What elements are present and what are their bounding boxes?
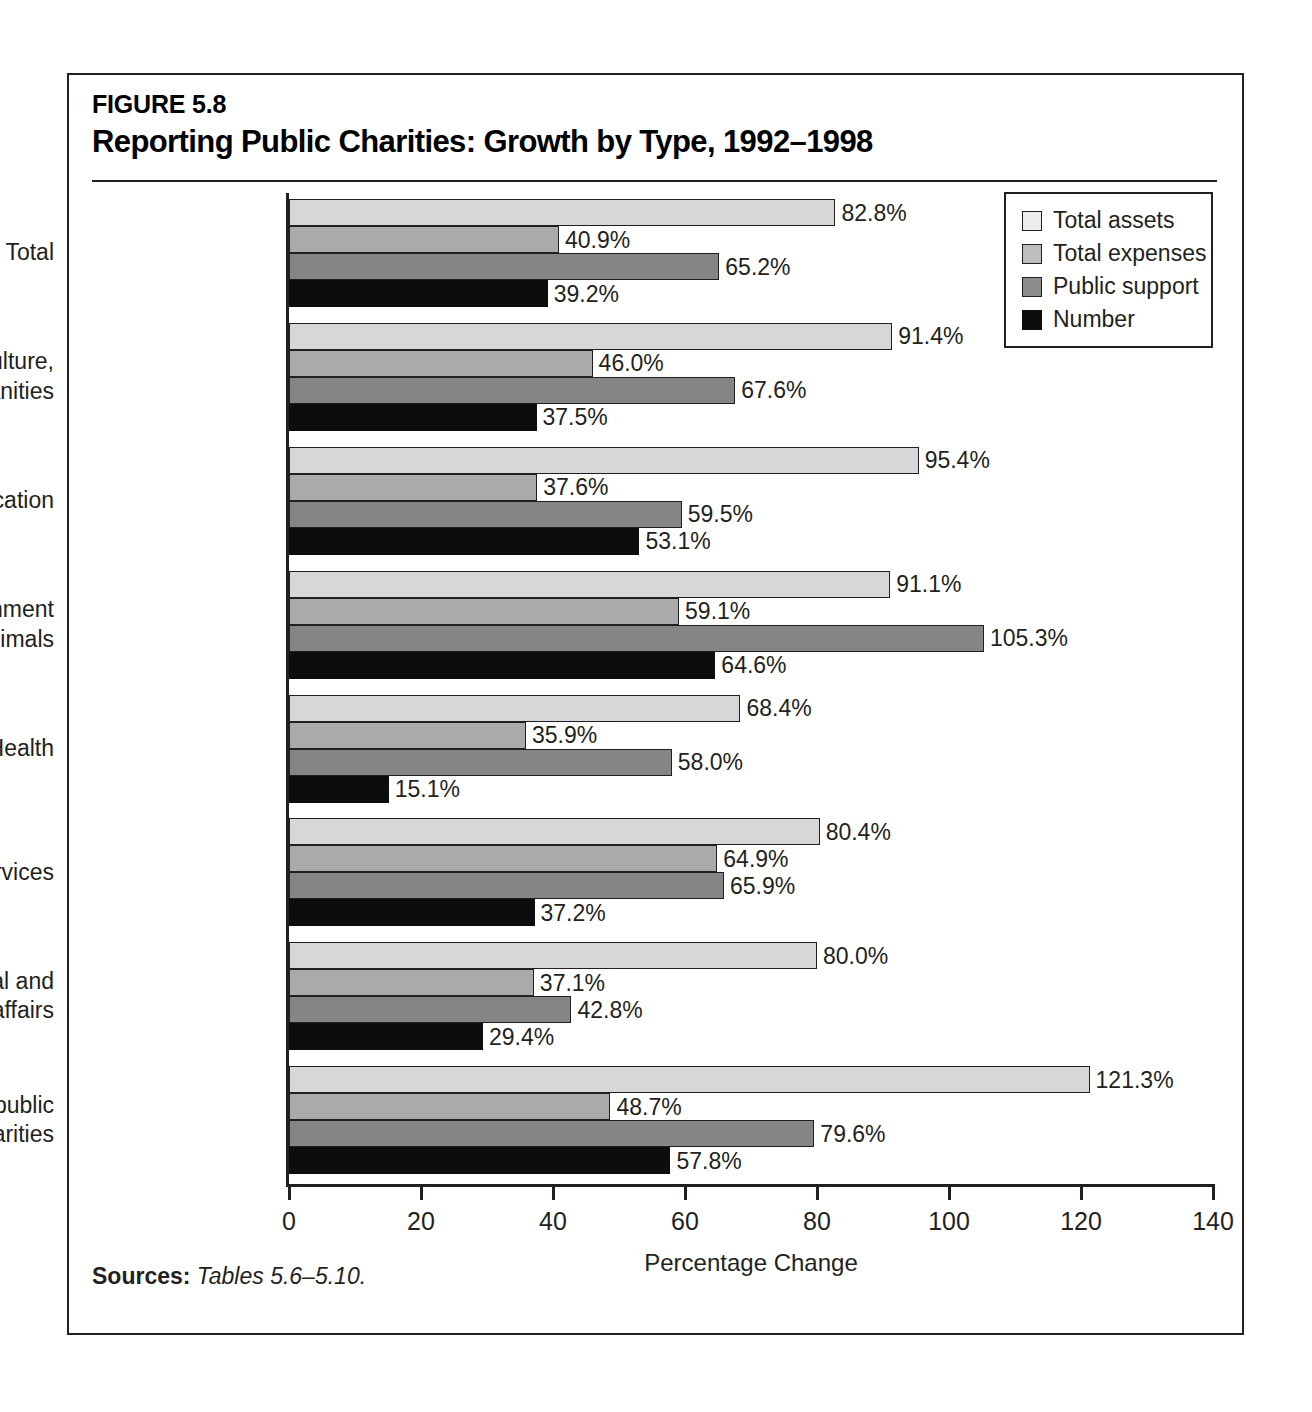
bar[interactable] — [289, 872, 724, 899]
bar-value-label: 64.9% — [717, 847, 788, 870]
category-label-line: Arts, culture, — [0, 347, 54, 376]
bar[interactable] — [289, 226, 559, 253]
legend-item[interactable]: Total expenses — [1022, 237, 1211, 270]
bar-row: 121.3% — [289, 1066, 1213, 1093]
bar[interactable] — [289, 323, 892, 350]
bar-value-label: 37.5% — [537, 406, 608, 429]
category-label: Total — [0, 238, 54, 267]
figure-header: FIGURE 5.8 Reporting Public Charities: G… — [92, 90, 1217, 160]
x-axis-line — [286, 1184, 1213, 1187]
bar-value-label: 48.7% — [610, 1095, 681, 1118]
bar[interactable] — [289, 942, 817, 969]
category-label-line: foreign affairs — [0, 996, 54, 1025]
category-label-line: and animals — [0, 625, 54, 654]
bar[interactable] — [289, 447, 919, 474]
bar-row: 80.0% — [289, 942, 1213, 969]
bar-value-label: 105.3% — [984, 627, 1068, 650]
x-axis-title: Percentage Change — [289, 1249, 1213, 1277]
bar-row: 67.6% — [289, 377, 1213, 404]
bar[interactable] — [289, 253, 719, 280]
bar-group: 68.4%35.9%58.0%15.1% — [289, 695, 1213, 803]
bar[interactable] — [289, 749, 672, 776]
category-label-line: Human services — [0, 858, 54, 887]
bar-value-label: 65.9% — [724, 874, 795, 897]
bar-group: 80.0%37.1%42.8%29.4% — [289, 942, 1213, 1050]
sources-label: Sources: — [92, 1263, 190, 1289]
bar[interactable] — [289, 845, 717, 872]
chart-legend: Total assetsTotal expensesPublic support… — [1004, 192, 1213, 348]
bar-value-label: 79.6% — [814, 1122, 885, 1145]
bar-value-label: 121.3% — [1090, 1068, 1174, 1091]
bar[interactable] — [289, 571, 890, 598]
bar-row: 58.0% — [289, 749, 1213, 776]
bar[interactable] — [289, 1023, 483, 1050]
bar-value-label: 35.9% — [526, 724, 597, 747]
x-axis-tick-label: 40 — [513, 1207, 593, 1236]
bar[interactable] — [289, 350, 593, 377]
bar[interactable] — [289, 1120, 814, 1147]
category-label: Education — [0, 486, 54, 515]
bar-value-label: 37.2% — [535, 901, 606, 924]
bar[interactable] — [289, 818, 820, 845]
legend-item[interactable]: Public support — [1022, 270, 1211, 303]
legend-label: Total assets — [1053, 209, 1174, 232]
bar-value-label: 57.8% — [670, 1149, 741, 1172]
x-axis-tick-label: 140 — [1173, 1207, 1253, 1236]
bar[interactable] — [289, 722, 526, 749]
legend-label: Public support — [1053, 275, 1199, 298]
bar[interactable] — [289, 899, 535, 926]
bar[interactable] — [289, 1066, 1090, 1093]
bar[interactable] — [289, 280, 548, 307]
bar[interactable] — [289, 652, 715, 679]
category-label-line: and humanities — [0, 377, 54, 406]
x-axis-tick-label: 60 — [645, 1207, 725, 1236]
category-label: Arts, culture,and humanities — [0, 347, 54, 406]
bar-group: 91.1%59.1%105.3%64.6% — [289, 571, 1213, 679]
x-axis-tick — [1080, 1184, 1083, 1200]
category-label-line: Total — [0, 238, 54, 267]
bar-value-label: 37.6% — [537, 476, 608, 499]
figure-frame: FIGURE 5.8 Reporting Public Charities: G… — [67, 73, 1244, 1335]
bar-value-label: 58.0% — [672, 751, 743, 774]
bar[interactable] — [289, 404, 537, 431]
bar[interactable] — [289, 377, 735, 404]
legend-item[interactable]: Total assets — [1022, 204, 1211, 237]
bar[interactable] — [289, 474, 537, 501]
bar[interactable] — [289, 996, 571, 1023]
x-axis-tick — [816, 1184, 819, 1200]
bar[interactable] — [289, 969, 534, 996]
x-axis-tick-label: 20 — [381, 1207, 461, 1236]
bar[interactable] — [289, 776, 389, 803]
bar-row: 37.6% — [289, 474, 1213, 501]
legend-label: Number — [1053, 308, 1135, 331]
bar-value-label: 91.1% — [890, 573, 961, 596]
x-axis-tick — [684, 1184, 687, 1200]
bar[interactable] — [289, 598, 679, 625]
bar-value-label: 40.9% — [559, 228, 630, 251]
bar-value-label: 80.0% — [817, 944, 888, 967]
bar[interactable] — [289, 1147, 670, 1174]
bar[interactable] — [289, 625, 984, 652]
x-axis-tick — [420, 1184, 423, 1200]
category-label: Environmentand animals — [0, 595, 54, 654]
bar-row: 80.4% — [289, 818, 1213, 845]
bar-row: 37.1% — [289, 969, 1213, 996]
bar-value-label: 59.5% — [682, 503, 753, 526]
x-axis-tick — [288, 1184, 291, 1200]
bar[interactable] — [289, 695, 740, 722]
bar-row: 42.8% — [289, 996, 1213, 1023]
bar-value-label: 65.2% — [719, 255, 790, 278]
bar-row: 91.1% — [289, 571, 1213, 598]
bar-group: 80.4%64.9%65.9%37.2% — [289, 818, 1213, 926]
bar-row: 37.5% — [289, 404, 1213, 431]
bar[interactable] — [289, 501, 682, 528]
bar[interactable] — [289, 528, 639, 555]
category-label-line: International and — [0, 967, 54, 996]
legend-item[interactable]: Number — [1022, 303, 1211, 336]
bar-row: 68.4% — [289, 695, 1213, 722]
category-label-line: charities — [0, 1120, 54, 1149]
bar-row: 48.7% — [289, 1093, 1213, 1120]
category-label-line: Education — [0, 486, 54, 515]
bar[interactable] — [289, 1093, 610, 1120]
bar[interactable] — [289, 199, 835, 226]
